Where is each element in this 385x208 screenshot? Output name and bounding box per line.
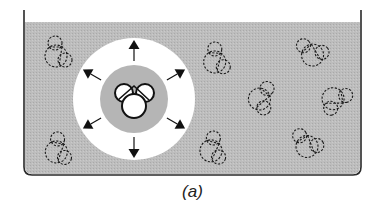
figure-caption: (a): [0, 182, 385, 202]
solvation-diagram: [0, 0, 385, 208]
